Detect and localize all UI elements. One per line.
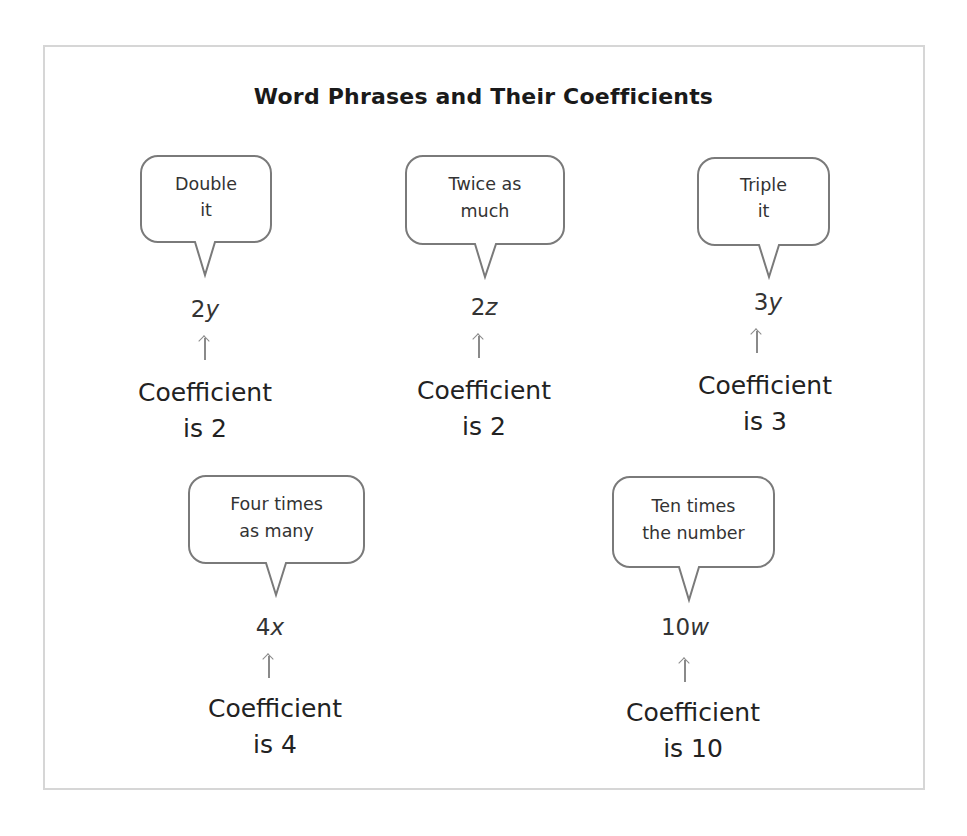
term-coefficient: 10 [661,614,690,640]
phrase-line-2: as many [188,518,365,544]
algebraic-term: 10w [605,614,765,640]
coefficient-label-line-1: Coefficient [384,373,584,409]
phrase-line-1: Four times [188,491,365,517]
term-coefficient: 2 [471,294,486,320]
coefficient-label-line-1: Coefficient [593,695,793,731]
term-variable: x [271,614,285,640]
speech-bubble-triple-it: Triple it [697,157,830,279]
term-variable: w [690,614,709,640]
term-coefficient: 3 [754,289,769,315]
coefficient-label-line-2: is 10 [593,731,793,767]
up-arrow-icon [756,331,758,353]
phrase-line-1: Double [140,171,272,197]
speech-bubble-ten-times-the-number: Ten times the number [612,476,775,602]
algebraic-term: 2y [125,296,285,322]
term-coefficient: 4 [256,614,271,640]
algebraic-term: 4x [190,614,350,640]
coefficient-label-line-2: is 4 [175,727,375,763]
phrase-line-1: Twice as [405,171,565,197]
phrase-line-1: Ten times [612,493,775,519]
coefficient-label-line-2: is 2 [384,409,584,445]
phrase-line-2: it [697,198,830,224]
coefficient-label-line-2: is 2 [105,411,305,447]
up-arrow-icon [204,338,206,360]
speech-bubble-double-it: Double it [140,155,272,277]
coefficient-label-line-2: is 3 [665,404,865,440]
term-coefficient: 2 [191,296,206,322]
phrase-line-2: it [140,197,272,223]
speech-bubble-twice-as-much: Twice as much [405,155,565,279]
coefficient-label: Coefficient is 10 [593,695,793,767]
term-variable: y [206,296,220,322]
algebraic-term: 3y [688,289,848,315]
coefficient-label-line-1: Coefficient [175,691,375,727]
algebraic-term: 2z [404,294,564,320]
term-variable: y [769,289,783,315]
up-arrow-icon [684,660,686,682]
phrase-line-2: much [405,198,565,224]
diagram-title: Word Phrases and Their Coefficients [0,84,967,109]
term-variable: z [485,294,497,320]
coefficient-label: Coefficient is 2 [384,373,584,445]
coefficient-label: Coefficient is 2 [105,375,305,447]
up-arrow-icon [268,656,270,678]
coefficient-label: Coefficient is 3 [665,368,865,440]
phrase-line-1: Triple [697,172,830,198]
coefficient-label: Coefficient is 4 [175,691,375,763]
speech-bubble-four-times-as-many: Four times as many [188,475,365,597]
coefficient-label-line-1: Coefficient [665,368,865,404]
coefficient-label-line-1: Coefficient [105,375,305,411]
phrase-line-2: the number [612,520,775,546]
up-arrow-icon [478,336,480,358]
